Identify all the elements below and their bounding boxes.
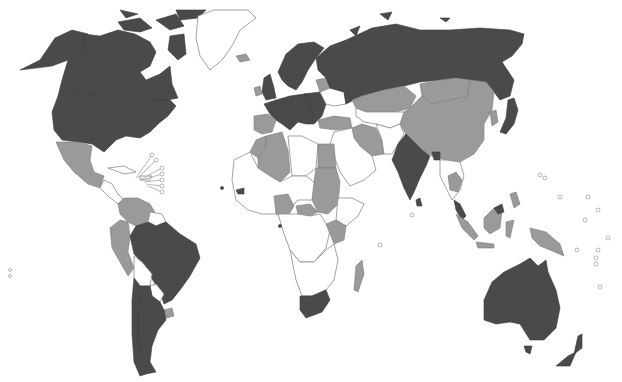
region-iceland: [236, 54, 250, 62]
region-greenland: [196, 10, 256, 70]
region-sudan: [312, 168, 340, 214]
region-australia: [484, 258, 560, 340]
asia: [316, 12, 524, 206]
region-sri-lanka: [416, 198, 422, 206]
region-java: [476, 242, 494, 248]
islet: [9, 269, 12, 272]
region-mexico: [56, 142, 104, 188]
region-ireland: [254, 86, 262, 96]
region-bangladesh: [432, 152, 440, 160]
islet: [9, 275, 12, 278]
world-map-svg: [0, 0, 622, 382]
oceania: [378, 173, 610, 366]
region-new-zealand: [556, 334, 582, 366]
region-madagascar: [354, 260, 364, 292]
region-central-america: [100, 180, 124, 204]
world-map: [0, 0, 622, 382]
region-ecuador-peru: [110, 220, 134, 276]
region-sulawesi: [506, 220, 514, 238]
region-philippines: [510, 192, 520, 208]
region-libya: [288, 136, 318, 176]
region-sumatra: [456, 214, 478, 240]
region-united-kingdom: [262, 74, 276, 100]
north-america: [20, 10, 256, 204]
islet-sao-tome: [278, 224, 281, 227]
region-cuba: [108, 166, 136, 174]
region-korea: [490, 110, 498, 126]
region-ethiopia-somalia: [336, 198, 364, 226]
region-japan: [500, 98, 518, 134]
region-egypt: [318, 144, 336, 168]
south-america: [9, 198, 201, 376]
region-papua: [530, 228, 564, 256]
region-tasmania: [524, 346, 532, 354]
islet-cape-verde: [220, 186, 223, 189]
region-turkey: [318, 116, 352, 130]
